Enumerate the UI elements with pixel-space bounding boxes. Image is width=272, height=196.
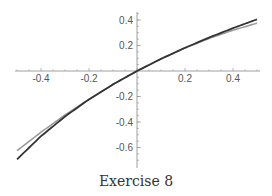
y-tick-label: -0.4: [116, 117, 134, 128]
figure-caption: Exercise 8: [0, 173, 272, 189]
chart: -0.4-0.20.20.40.40.2-0.2-0.4-0.6 Exercis…: [0, 0, 272, 196]
y-tick-label: 0.2: [119, 40, 133, 51]
y-tick-label: -0.6: [116, 142, 134, 153]
x-tick-label: -0.2: [80, 73, 98, 84]
y-tick-label: 0.4: [119, 15, 133, 26]
y-tick-label: -0.2: [116, 91, 134, 102]
x-tick-label: -0.4: [32, 73, 50, 84]
plot-area: -0.4-0.20.20.40.40.2-0.2-0.4-0.6: [0, 0, 272, 196]
x-tick-label: 0.4: [226, 73, 240, 84]
x-tick-label: 0.2: [178, 73, 192, 84]
